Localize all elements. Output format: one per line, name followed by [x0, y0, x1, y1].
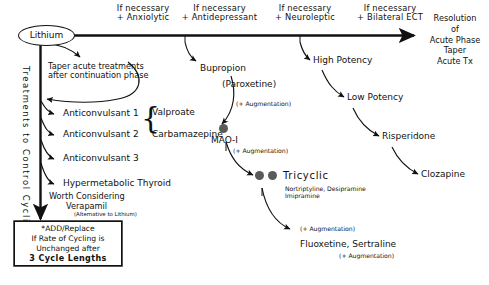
add-replace-line1: *ADD/Replace	[15, 224, 121, 234]
augmentation-note-3: (+ Augmentation)	[300, 226, 355, 233]
node-tricyclic[interactable]: Tricyclic	[283, 170, 329, 181]
step-antidepressant-line2: + Antidepressant	[172, 13, 267, 22]
step-neuroleptic-line2: + Neuroleptic	[262, 13, 348, 22]
drug-valproate: Valproate	[152, 107, 195, 117]
taper-note-line2: after continuation phase	[48, 71, 149, 80]
node-clozapine[interactable]: Clozapine	[421, 169, 465, 179]
step-label-ect: If necessary + Bilateral ECT	[345, 4, 435, 23]
verapamil-alt-note: (Alternative to Lithium)	[74, 211, 137, 217]
node-hypermetabolic-thyroid[interactable]: Hypermetabolic Thyroid	[63, 178, 171, 188]
endpoint-line-2: of	[423, 24, 487, 35]
node-risperidone[interactable]: Risperidone	[382, 131, 435, 141]
endpoint-line-5: Acute Tx	[423, 56, 487, 67]
node-lithium[interactable]: Lithium	[18, 25, 75, 46]
node-low-potency[interactable]: Low Potency	[347, 92, 403, 102]
tricyclic-drugs-line2: Imipramine	[285, 193, 366, 200]
diagram-canvas: Lithium If necessary + Anxiolytic If nec…	[0, 0, 489, 285]
node-bupropion[interactable]: Bupropion	[200, 63, 246, 73]
add-replace-box: *ADD/Replace If Rate of Cycling is Uncha…	[14, 221, 122, 266]
left-branch-curves	[41, 101, 54, 184]
step-label-antidepressant: If necessary + Antidepressant	[172, 4, 267, 23]
node-ssri[interactable]: Fluoxetine, Sertraline	[300, 239, 396, 249]
node-paroxetine[interactable]: (Paroxetine)	[222, 79, 276, 89]
bullet-tricyclic-a	[255, 171, 264, 180]
augmentation-note-1: (+ Augmentation)	[236, 101, 291, 108]
tricyclic-drugs: Nortriptyline, Desipramine Imipramine	[285, 186, 366, 200]
node-anticonvulsant-1[interactable]: Anticonvulsant 1	[63, 108, 139, 118]
node-anticonvulsant-2[interactable]: Anticonvulsant 2	[63, 129, 139, 139]
node-lithium-label: Lithium	[30, 30, 64, 40]
taper-note: Taper acute treatments after continuatio…	[48, 62, 149, 80]
endpoint-line-1: Resolution	[423, 13, 487, 24]
bullet-mao-i	[219, 124, 228, 133]
endpoint-resolution: Resolution of Acute Phase Taper Acute Tx	[423, 13, 487, 67]
augmentation-note-2: (+ Augmentation)	[233, 148, 288, 155]
add-replace-line2: If Rate of Cycling is	[15, 234, 121, 244]
vertical-axis-label: Treatments to Control Cycling	[21, 66, 31, 237]
step-ect-line2: + Bilateral ECT	[345, 13, 435, 22]
worth-considering-label: Worth Considering	[49, 192, 125, 201]
endpoint-line-3: Acute Phase	[423, 35, 487, 46]
endpoint-line-4: Taper	[423, 45, 487, 56]
node-anticonvulsant-3[interactable]: Anticonvulsant 3	[63, 153, 139, 163]
step-label-neuroleptic: If necessary + Neuroleptic	[262, 4, 348, 23]
node-mao-i[interactable]: MAO-I	[211, 135, 238, 145]
node-verapamil[interactable]: Verapamil	[66, 202, 107, 211]
bullet-tricyclic-b	[268, 171, 277, 180]
augmentation-note-4: (+ Augmentation)	[339, 253, 394, 260]
add-replace-line4: 3 Cycle Lengths	[29, 254, 106, 263]
node-high-potency[interactable]: High Potency	[313, 55, 372, 65]
add-replace-line3: Unchanged after	[15, 244, 121, 254]
